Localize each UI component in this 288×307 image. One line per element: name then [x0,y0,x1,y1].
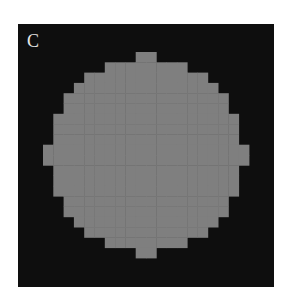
pixelated-disk [18,24,274,287]
image-panel: C [18,24,274,287]
panel-label: C [27,32,39,50]
